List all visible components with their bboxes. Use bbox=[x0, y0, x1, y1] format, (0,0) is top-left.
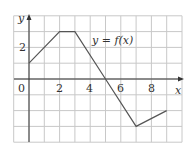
y-tick-2: 2 bbox=[19, 41, 26, 54]
x-tick-8: 8 bbox=[148, 82, 155, 95]
x-axis-label: x bbox=[175, 84, 182, 97]
y-axis-arrow-icon bbox=[27, 14, 32, 20]
curve-label: y = f(x) bbox=[91, 34, 133, 47]
x-tick-4: 4 bbox=[86, 82, 93, 95]
x-tick-6: 6 bbox=[117, 82, 124, 95]
x-tick-2: 2 bbox=[56, 82, 63, 95]
x-axis-arrow-icon bbox=[178, 77, 184, 82]
graph: y x 0 2 4 6 8 2 y = f(x) bbox=[0, 0, 190, 153]
y-axis-label: y bbox=[17, 12, 25, 25]
origin-label: 0 bbox=[18, 82, 25, 95]
